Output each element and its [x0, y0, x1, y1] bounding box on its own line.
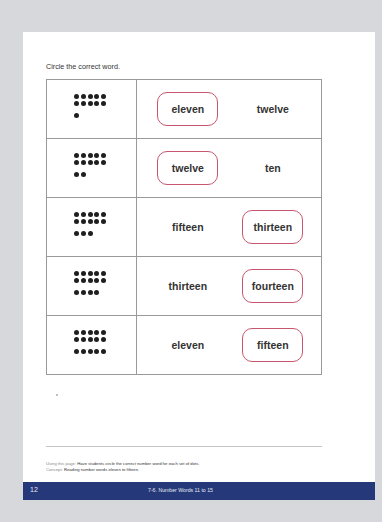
dot-icon [94, 337, 99, 342]
dot-icon [88, 278, 93, 283]
word-choice[interactable]: twelve [242, 92, 303, 126]
dot-icon [81, 349, 86, 354]
word-choice-circled[interactable]: twelve [157, 151, 218, 185]
dot-row [74, 349, 106, 355]
dot-icon [94, 219, 99, 224]
dot-icon [81, 94, 86, 99]
dot-icon [81, 337, 86, 342]
exercise-row: thirteenfourteen [47, 257, 322, 316]
dot-row [74, 160, 106, 166]
dot-icon [101, 94, 106, 99]
dot-icon [88, 219, 93, 224]
dot-icon [101, 330, 106, 335]
dot-icon [94, 160, 99, 165]
dot-icon [101, 153, 106, 158]
dot-icon [74, 231, 79, 236]
word-choice-circled[interactable]: fourteen [242, 269, 303, 303]
dot-icon [88, 153, 93, 158]
dot-icon [74, 337, 79, 342]
dot-row [74, 113, 106, 119]
dot-icon [74, 113, 79, 118]
dot-icon [101, 278, 106, 283]
dot-icon [81, 101, 86, 106]
word-choice[interactable]: fifteen [157, 210, 218, 244]
dot-icon [81, 231, 86, 236]
dots-cell [47, 257, 137, 316]
worksheet-page: Circle the correct word. eleventwelvetwe… [23, 32, 375, 500]
dot-icon [74, 153, 79, 158]
dot-row [74, 290, 106, 296]
dot-icon [88, 271, 93, 276]
concept-label: Concept: [46, 467, 63, 472]
word-choice[interactable]: ten [242, 151, 303, 185]
word-choice-circled[interactable]: eleven [157, 92, 218, 126]
concept-note: Concept: Reading number words eleven to … [46, 467, 199, 473]
dot-icon [88, 349, 93, 354]
dot-icon [101, 219, 106, 224]
dots-cell [47, 139, 137, 198]
dot-icon [88, 160, 93, 165]
dot-icon [74, 349, 79, 354]
dot-row [74, 278, 106, 284]
dot-icon [74, 101, 79, 106]
concept-text: Reading number words eleven to fifteen. [64, 467, 139, 472]
dot-icon [74, 278, 79, 283]
exercise-table: eleventwelvetwelvetenfifteenthirteenthir… [46, 79, 322, 375]
dot-icon [81, 212, 86, 217]
dot-icon [101, 337, 106, 342]
dot-icon [74, 271, 79, 276]
dot-icon [81, 271, 86, 276]
dot-icon [94, 271, 99, 276]
print-speck [56, 394, 58, 396]
exercise-row: twelveten [47, 139, 322, 198]
dot-icon [88, 330, 93, 335]
dot-icon [74, 172, 79, 177]
exercise-row: fifteenthirteen [47, 198, 322, 257]
word-choice[interactable]: thirteen [157, 269, 218, 303]
word-choice-circled[interactable]: fifteen [242, 328, 303, 362]
dot-group-13 [74, 212, 106, 238]
dot-row [74, 212, 106, 218]
dot-icon [94, 101, 99, 106]
dot-group-12 [74, 153, 106, 179]
exercise-row: eleventwelve [47, 80, 322, 139]
dot-icon [94, 212, 99, 217]
choices-cell: eleventwelve [137, 80, 322, 139]
lesson-title: 7-6. Number Words 11 to 15 [148, 487, 213, 493]
dot-icon [101, 160, 106, 165]
dot-icon [94, 290, 99, 295]
dot-icon [74, 330, 79, 335]
dot-icon [88, 231, 93, 236]
dot-icon [81, 172, 86, 177]
dot-icon [88, 101, 93, 106]
usage-text: Have students circle the correct number … [77, 461, 199, 466]
dot-icon [88, 212, 93, 217]
dot-group-11 [74, 94, 106, 120]
dots-cell [47, 198, 137, 257]
dot-icon [74, 212, 79, 217]
dot-icon [81, 219, 86, 224]
dot-icon [74, 94, 79, 99]
dots-cell [47, 316, 137, 375]
word-choice-circled[interactable]: thirteen [242, 210, 303, 244]
dot-group-15 [74, 330, 106, 356]
dot-icon [74, 219, 79, 224]
dot-icon [94, 349, 99, 354]
dot-group-14 [74, 271, 106, 297]
word-choice[interactable]: eleven [157, 328, 218, 362]
dot-icon [74, 160, 79, 165]
dot-row [74, 219, 106, 225]
dot-icon [81, 290, 86, 295]
teacher-notes: Using this page: Have students circle th… [46, 461, 199, 472]
dot-icon [94, 153, 99, 158]
dot-icon [81, 278, 86, 283]
dot-row [74, 330, 106, 336]
dot-icon [88, 290, 93, 295]
dot-row [74, 231, 106, 237]
dot-row [74, 337, 106, 343]
dot-row [74, 101, 106, 107]
dots-cell [47, 80, 137, 139]
dot-row [74, 153, 106, 159]
dot-icon [88, 94, 93, 99]
page-number: 12 [30, 486, 38, 493]
